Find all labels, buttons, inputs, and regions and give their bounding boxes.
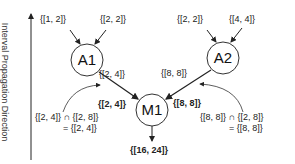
curve-arrow-left bbox=[63, 85, 100, 112]
annotation-right-a: {[8, 8]} bbox=[200, 112, 226, 122]
node-m1: M1 bbox=[134, 92, 170, 128]
annotation-left-a: {[2, 4]} bbox=[35, 112, 61, 122]
diagram-canvas bbox=[0, 0, 295, 164]
annotation-left-line2: = {[2, 4]} bbox=[63, 123, 97, 133]
label-a1-in-left: {[1, 2]} bbox=[40, 14, 66, 24]
label-a1-in-right: {[2, 2]} bbox=[100, 14, 126, 24]
label-m1-in-right: {[8, 8]} bbox=[173, 98, 201, 108]
intersection-op-right: ∩ bbox=[229, 112, 235, 122]
annotation-right-line2: = {[8, 8]} bbox=[229, 123, 263, 133]
annotation-right-line1: {[8, 8]} ∩ {[2, 8]} bbox=[200, 112, 264, 122]
label-m1-out: {[16, 24]} bbox=[130, 145, 168, 155]
label-a1-out: {[2, 4]} bbox=[99, 69, 125, 79]
label-m1-in-left: {[2, 4]} bbox=[98, 99, 126, 109]
label-a2-out: {[8, 8]} bbox=[161, 68, 187, 78]
annotation-left-line1: {[2, 4]} ∩ {[2, 8]} bbox=[35, 112, 99, 122]
node-a2: A2 bbox=[205, 40, 241, 76]
annotation-left-b: {[2, 8]} bbox=[73, 112, 99, 122]
label-a2-in-right: {[4, 4]} bbox=[229, 14, 255, 24]
label-a2-in-left: {[2, 2]} bbox=[177, 14, 203, 24]
annotation-right-b: {[2, 8]} bbox=[238, 112, 264, 122]
axis-label: Interval Propagation Direction bbox=[0, 23, 10, 142]
curve-arrow-right bbox=[200, 84, 243, 112]
intersection-op-left: ∩ bbox=[64, 112, 70, 122]
